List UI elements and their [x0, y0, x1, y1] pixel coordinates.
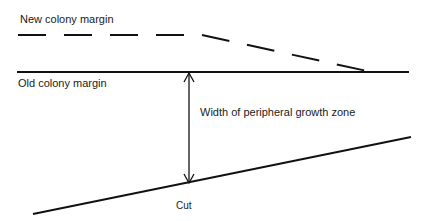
growth-zone-arrow	[184, 73, 194, 183]
growth-zone-width-label: Width of peripheral growth zone	[200, 107, 355, 118]
new-colony-margin-label: New colony margin	[20, 14, 114, 25]
cut-label: Cut	[176, 201, 192, 211]
diagram-canvas: New colony margin Old colony margin Widt…	[0, 0, 433, 221]
new-colony-margin-line	[18, 35, 367, 71]
old-colony-margin-label: Old colony margin	[18, 78, 107, 89]
cut-line	[33, 137, 411, 214]
